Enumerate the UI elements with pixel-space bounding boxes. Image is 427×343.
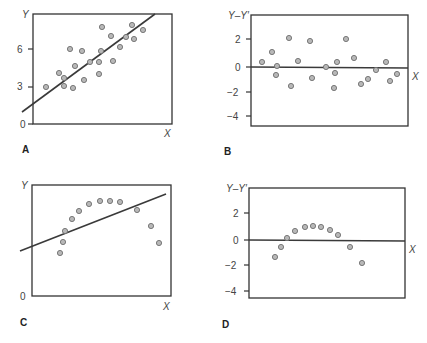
- panel-d-zero-line: [249, 240, 405, 241]
- panel-d-ytick-label: −2: [225, 260, 237, 271]
- panel-b-ytick-label: −4: [227, 111, 239, 122]
- panel-c-ytick-label: 0: [20, 291, 26, 302]
- panel-d-ytick-label: 2: [233, 208, 239, 219]
- panel-b-y-axis-label: Y–Y′: [228, 10, 250, 21]
- panel-b-ytick-label: −2: [227, 87, 239, 98]
- panel-d-ytick-label: −4: [225, 286, 237, 297]
- panel-c-x-axis-label: X: [162, 301, 170, 312]
- panel-c-scatter: 0 Y X C: [20, 180, 171, 328]
- panel-d-label: D: [222, 319, 229, 330]
- panel-a-frame: [33, 14, 172, 124]
- panel-d-frame: [249, 188, 405, 298]
- panel-a-scatter: 0 3 6 Y X A: [17, 9, 172, 155]
- panel-c-regression-line: [20, 194, 166, 251]
- panel-d-y-axis-label: Y–Y′: [226, 183, 248, 194]
- panel-d-residuals: 2 0 −2 −4 Y–Y′ X D: [222, 183, 416, 330]
- panel-b-ytick-label: 2: [235, 34, 241, 45]
- panel-d-ytick-label: 0: [233, 235, 239, 246]
- panel-b-frame: [251, 15, 408, 126]
- panel-b-points: [259, 35, 399, 90]
- panel-c-label: C: [20, 317, 27, 328]
- panel-a-x-axis-label: X: [163, 128, 171, 139]
- panel-a-ytick-label: 6: [17, 44, 23, 55]
- panel-a-ytick-label: 0: [20, 119, 26, 130]
- panel-c-points: [57, 198, 161, 255]
- panel-d-points: [272, 223, 364, 265]
- panel-b-ytick-label: 0: [235, 62, 241, 73]
- panel-a-ytick-label: 3: [17, 81, 23, 92]
- panel-a-label: A: [22, 144, 29, 155]
- figure-canvas: 0 3 6 Y X A: [0, 0, 427, 343]
- panel-b-x-axis-label: X: [411, 71, 419, 82]
- panel-a-y-axis-label: Y: [22, 9, 30, 20]
- panel-b-label: B: [224, 146, 231, 157]
- panel-d-x-axis-label: X: [408, 244, 416, 255]
- panel-b-residuals: 2 0 −2 −4 Y–Y′ X B: [224, 10, 419, 157]
- panel-c-y-axis-label: Y: [21, 180, 29, 191]
